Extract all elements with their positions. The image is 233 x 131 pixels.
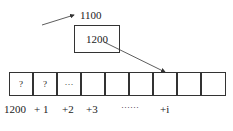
array-cell <box>177 72 201 96</box>
array-cell <box>81 72 105 96</box>
offset-label: +2 <box>62 104 74 115</box>
offset-label: +i <box>160 104 169 115</box>
address-arrow <box>42 15 74 25</box>
array-cell <box>105 72 129 96</box>
pointer-value: 1200 <box>86 33 108 45</box>
array-cell: ? <box>9 72 33 96</box>
array-cell <box>201 72 226 96</box>
array-cell <box>129 72 153 96</box>
offset-label: + 1 <box>34 104 48 115</box>
array-cell: ··· <box>57 72 81 96</box>
offset-label: 1200 <box>4 104 26 115</box>
ellipsis-label: ······ <box>121 103 139 112</box>
pointer-box: 1200 <box>74 25 120 53</box>
address-label: 1100 <box>80 10 102 21</box>
array-cell: ? <box>33 72 57 96</box>
offset-label: +3 <box>86 104 98 115</box>
array-cell <box>153 72 177 96</box>
